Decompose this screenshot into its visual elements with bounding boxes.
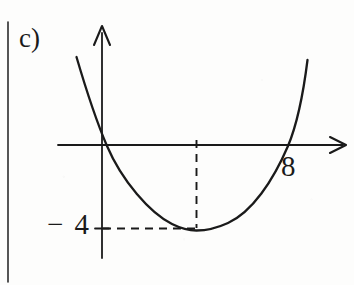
part-label-c: c)	[19, 25, 40, 52]
parabola-curve	[77, 57, 308, 231]
figure-canvas: c) − 4 8	[0, 0, 354, 285]
parabola-sketch-svg	[0, 0, 354, 285]
y-intercept-label-minus-four: − 4	[47, 210, 91, 239]
x-intercept-label-eight: 8	[281, 152, 296, 181]
y-axis	[94, 26, 110, 258]
